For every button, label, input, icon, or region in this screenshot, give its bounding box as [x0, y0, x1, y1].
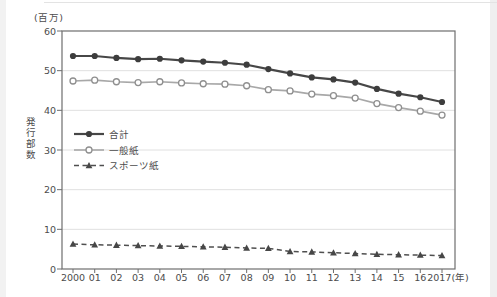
- open-circle-marker: [135, 80, 141, 86]
- y-tick-label: 60: [44, 26, 56, 37]
- open-circle-marker: [157, 79, 163, 85]
- y-tick-label: 40: [44, 105, 56, 116]
- open-circle-marker: [70, 78, 76, 84]
- open-circle-marker: [439, 112, 445, 118]
- x-tick-label: 04: [154, 272, 166, 283]
- filled-circle-marker: [135, 56, 141, 62]
- open-circle-marker: [374, 101, 380, 107]
- filled-circle-marker: [395, 91, 401, 97]
- x-tick-label: 06: [197, 272, 209, 283]
- x-tick-label: 2017(年): [427, 272, 469, 283]
- open-circle-marker: [244, 83, 250, 89]
- y-tick-label: 50: [44, 65, 56, 76]
- legend-item-label: スポーツ紙: [109, 160, 159, 171]
- open-circle-marker: [92, 77, 98, 83]
- x-tick-label: 05: [175, 272, 187, 283]
- filled-circle-marker: [86, 131, 92, 137]
- y-tick-label: 0: [50, 264, 56, 275]
- open-circle-marker: [200, 81, 206, 87]
- open-circle-marker: [265, 87, 271, 93]
- filled-circle-marker: [70, 53, 76, 59]
- open-circle-marker: [287, 88, 293, 94]
- filled-circle-marker: [439, 99, 445, 105]
- open-circle-marker: [352, 95, 358, 101]
- x-tick-label: 07: [219, 272, 231, 283]
- open-circle-marker: [396, 105, 402, 111]
- series-line: [73, 56, 442, 102]
- x-tick-label: 12: [327, 272, 339, 283]
- x-tick-label: 03: [132, 272, 144, 283]
- x-tick-label: 08: [241, 272, 253, 283]
- filled-circle-marker: [200, 58, 206, 64]
- filled-circle-marker: [352, 79, 358, 85]
- open-circle-marker: [222, 81, 228, 87]
- filled-circle-marker: [309, 74, 315, 80]
- series-line: [73, 244, 442, 256]
- filled-circle-marker: [92, 53, 98, 59]
- open-circle-marker: [86, 147, 92, 153]
- x-tick-label: 16: [414, 272, 426, 283]
- filled-circle-marker: [178, 57, 184, 63]
- x-tick-label: 10: [284, 272, 296, 283]
- filled-circle-marker: [113, 55, 119, 61]
- filled-circle-marker: [222, 60, 228, 66]
- filled-circle-marker: [157, 56, 163, 62]
- open-circle-marker: [417, 108, 423, 114]
- open-circle-marker: [330, 93, 336, 99]
- filled-circle-marker: [330, 76, 336, 82]
- x-tick-label: 02: [110, 272, 122, 283]
- filled-circle-marker: [244, 62, 250, 68]
- y-tick-label: 10: [44, 224, 56, 235]
- x-tick-label: 01: [89, 272, 101, 283]
- open-circle-marker: [113, 79, 119, 85]
- x-tick-label: 15: [393, 272, 405, 283]
- filled-circle-marker: [417, 94, 423, 100]
- open-circle-marker: [309, 91, 315, 97]
- legend-item-label: 合計: [109, 129, 129, 140]
- y-tick-label: 30: [44, 145, 56, 156]
- line-chart-canvas: 0102030405060200001020304050607080910111…: [0, 0, 497, 297]
- filled-circle-marker: [374, 86, 380, 92]
- x-tick-label: 09: [262, 272, 274, 283]
- x-tick-label: 2000: [61, 272, 85, 283]
- y-tick-label: 20: [44, 184, 56, 195]
- x-tick-label: 14: [371, 272, 383, 283]
- filled-circle-marker: [265, 66, 271, 72]
- filled-circle-marker: [287, 70, 293, 76]
- newspaper-circulation-chart: (百万) 発行部数 010203040506020000102030405060…: [0, 0, 497, 297]
- x-tick-label: 11: [306, 272, 318, 283]
- open-circle-marker: [179, 80, 185, 86]
- legend-item-label: 一般紙: [109, 145, 139, 156]
- triangle-marker: [265, 245, 272, 251]
- x-tick-label: 13: [349, 272, 361, 283]
